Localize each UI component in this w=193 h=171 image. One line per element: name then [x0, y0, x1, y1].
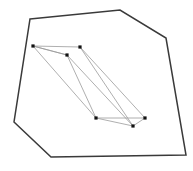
- vertex-marker-5: [131, 124, 134, 127]
- outer-hull-polygon: [14, 10, 186, 157]
- polygon-diagram-svg: [0, 0, 193, 171]
- vertex-marker-2: [65, 53, 68, 56]
- vertex-marker-1: [78, 45, 81, 48]
- inner-diagonal-4: [67, 55, 133, 126]
- inner-diagonal-2: [80, 47, 133, 126]
- inner-polygon: [33, 46, 145, 126]
- vertex-marker-0: [31, 44, 34, 47]
- vertex-marker-3: [94, 116, 97, 119]
- figure-container: [0, 0, 193, 171]
- inner-diagonals-group: [33, 46, 145, 126]
- vertex-marker-4: [143, 116, 146, 119]
